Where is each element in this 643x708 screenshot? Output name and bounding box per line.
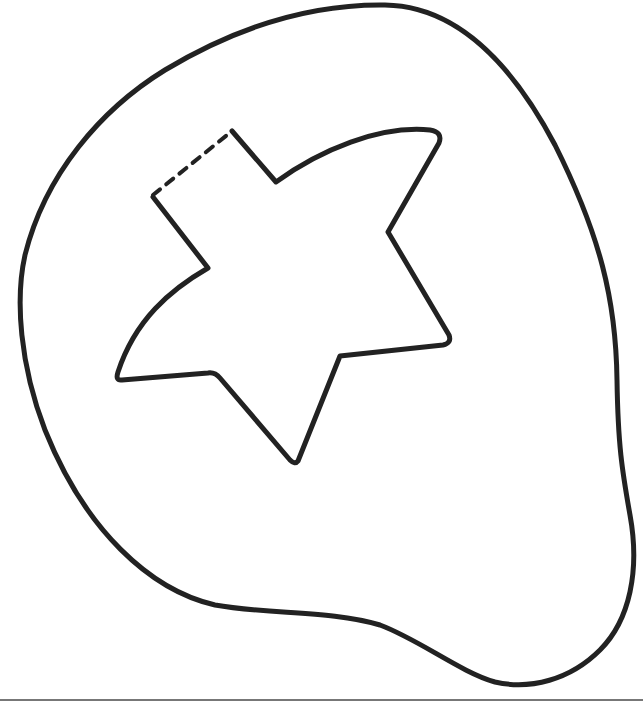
blob-outline [20, 5, 634, 685]
star-dashed-edge [153, 131, 232, 195]
star-outline [117, 129, 450, 462]
drawing-canvas [0, 0, 643, 708]
